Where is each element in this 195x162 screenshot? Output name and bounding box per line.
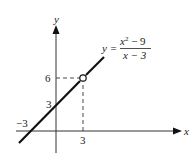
equation-label: y = x2 − 9 x − 3 — [101, 35, 151, 61]
function-line — [19, 81, 80, 143]
function-graph: y x 6 3 −3 3 y = x2 − 9 x − 3 — [0, 0, 195, 162]
y-tick-3: 3 — [46, 98, 52, 110]
x-axis-label: x — [183, 125, 189, 137]
equation-numerator: x2 − 9 — [119, 35, 146, 47]
y-axis-arrow-icon — [53, 25, 60, 34]
x-tick-3: 3 — [80, 134, 86, 146]
function-line-upper — [86, 57, 104, 75]
x-axis-arrow-icon — [173, 128, 182, 135]
y-tick-6: 6 — [45, 72, 51, 84]
equation-denominator: x − 3 — [122, 49, 147, 61]
equation-lhs: y = — [101, 42, 117, 54]
y-axis-label: y — [53, 13, 59, 25]
x-tick-neg3: −3 — [16, 117, 28, 129]
hole-point — [80, 75, 86, 81]
